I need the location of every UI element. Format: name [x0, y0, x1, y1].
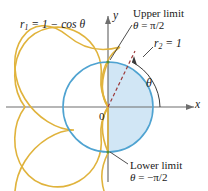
circle-subscript: 2 [158, 42, 162, 51]
upper-intersection-point [106, 60, 109, 63]
y-axis-label: y [113, 9, 118, 22]
upper-limit-equation: θ = π/2 [133, 19, 184, 31]
origin-label: 0 [99, 110, 105, 122]
cardioid-equation-label: r1 = 1 − cos θ [20, 18, 85, 32]
cardioid-subscript: 1 [24, 23, 28, 32]
circle-equation-label: r2 = 1 [154, 37, 182, 51]
lower-limit-value: = −π/2 [138, 171, 167, 183]
circle-label-leader [143, 47, 153, 57]
cardioid-curve [15, 26, 120, 191]
lower-intersection-point [106, 150, 109, 153]
polar-curves-figure: r1 = 1 − cos θ Upper limit θ = π/2 r2 = … [0, 0, 208, 191]
lower-limit-label: Lower limit θ = −π/2 [130, 159, 182, 184]
upper-limit-label: Upper limit θ = π/2 [133, 7, 184, 32]
upper-limit-leader [110, 25, 132, 60]
upper-limit-value: = π/2 [141, 19, 164, 31]
circle-equation-body: = 1 [165, 37, 181, 49]
angle-theta-label: θ [146, 77, 152, 90]
cardioid-theta-symbol: θ [79, 18, 85, 30]
lower-limit-equation: θ = −π/2 [130, 171, 182, 183]
lower-limit-title: Lower limit [130, 159, 182, 171]
x-axis-arrowhead [186, 104, 194, 110]
upper-limit-title: Upper limit [133, 7, 184, 19]
x-axis-label: x [195, 98, 200, 111]
y-axis-arrowhead [105, 16, 111, 24]
cardioid-equation-body: = 1 − cos [31, 18, 79, 30]
upper-limit-theta: θ [133, 19, 138, 31]
lower-limit-theta: θ [130, 171, 135, 183]
lower-limit-leader [110, 152, 128, 164]
